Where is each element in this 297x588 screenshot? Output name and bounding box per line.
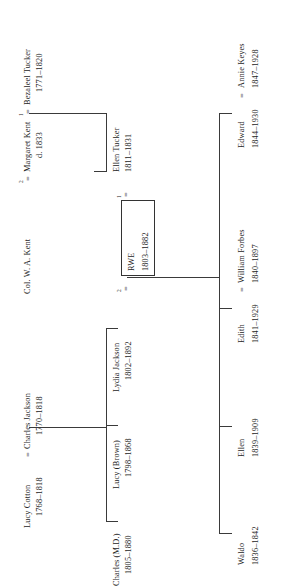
person-name-charles-md: Charles (M.D.) bbox=[113, 533, 121, 586]
equals-sign-lucy-charles: = bbox=[24, 452, 33, 457]
person-dates-lucy-cotton: 1768–1818 bbox=[36, 477, 44, 516]
connector-ellen-tucker-stub bbox=[94, 171, 107, 172]
person-name-ellen: Ellen bbox=[238, 439, 246, 457]
person-name-col-w-a-kent: Col. W. A. Kent bbox=[24, 239, 32, 294]
connector-lucy-brown-stub bbox=[106, 425, 118, 426]
connector-edith-stub bbox=[219, 308, 232, 309]
connector-kent-vertical bbox=[106, 113, 107, 172]
person-name-rwe: RWE bbox=[128, 253, 136, 271]
person-dates-bezaleel-tucker: 1771–1820 bbox=[36, 53, 44, 92]
equals-sign-kent-margaret: = bbox=[24, 176, 33, 181]
connector-edward-stub bbox=[219, 113, 232, 114]
equals-sign-rwe-lydia: = bbox=[122, 286, 131, 291]
person-name-lucy-brown: Lucy (Brown) bbox=[113, 440, 121, 489]
person-dates-lydia-jackson: 1802–1892 bbox=[125, 341, 133, 380]
connector-rwe-to-children bbox=[127, 277, 220, 278]
connector-ellen-stub bbox=[219, 426, 232, 427]
person-name-william-forbes: William Forbes bbox=[238, 229, 246, 283]
person-name-lucy-cotton: Lucy Cotton bbox=[24, 485, 32, 528]
person-name-waldo: Waldo bbox=[238, 543, 246, 565]
person-dates-edith: 1841–1929 bbox=[252, 304, 260, 343]
person-dates-william-forbes: 1840–1897 bbox=[252, 244, 260, 283]
person-dates-edward: 1844–1930 bbox=[252, 109, 260, 148]
person-name-bezaleel-tucker: Bezaleel Tucker bbox=[24, 49, 32, 105]
equals-sign-edith-william: = bbox=[238, 287, 247, 292]
connector-lydia-jackson-stub bbox=[106, 328, 118, 329]
person-dates-charles-md: 1805–1880 bbox=[125, 535, 133, 574]
person-name-annie-keyes: Annie Keyes bbox=[238, 43, 246, 88]
connector-kent-horizontal bbox=[29, 113, 107, 114]
person-dates-ellen: 1839–1909 bbox=[252, 418, 260, 457]
person-dates-ellen-tucker: 1811–1831 bbox=[125, 134, 133, 172]
person-dates-charles-jackson: 1770–1818 bbox=[36, 396, 44, 435]
connector-charles-md-stub bbox=[106, 521, 118, 522]
person-dates-annie-keyes: 1847–1928 bbox=[252, 49, 260, 88]
equals-sign-edward-annie: = bbox=[238, 93, 247, 98]
person-name-edith: Edith bbox=[238, 324, 246, 343]
person-dates-margaret-kent: d. 1833 bbox=[36, 132, 44, 158]
person-name-margaret-kent: Margaret Kent bbox=[24, 122, 32, 172]
equals-sign-rwe-ellen-tucker: = bbox=[122, 192, 131, 197]
family-tree-diagram: Col. W. A. Kent 2 = Margaret Kent d. 183… bbox=[0, 0, 297, 588]
person-name-edward: Edward bbox=[238, 121, 246, 148]
person-name-lydia-jackson: Lydia Jackson bbox=[113, 343, 121, 392]
bracket-rwe-children bbox=[219, 113, 220, 534]
person-name-charles-jackson: Charles Jackson bbox=[24, 393, 32, 449]
connector-jackson-horizontal bbox=[29, 427, 107, 428]
person-dates-waldo: 1836–1842 bbox=[252, 526, 260, 565]
person-name-ellen-tucker: Ellen Tucker bbox=[113, 128, 121, 172]
person-dates-rwe: 1803–1882 bbox=[142, 232, 150, 271]
connector-waldo-stub bbox=[219, 533, 232, 534]
person-dates-lucy-brown: 1798–1868 bbox=[125, 438, 133, 477]
